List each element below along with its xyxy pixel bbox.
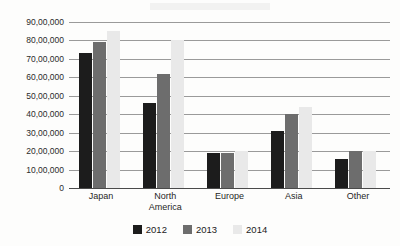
bar-groups: [69, 22, 390, 188]
legend-swatch-icon: [233, 225, 242, 234]
y-axis-tick-label: 30,00,000: [0, 128, 64, 138]
bar-other-2013[interactable]: [349, 151, 362, 188]
chart-legend: 201220132014: [0, 224, 400, 235]
y-axis-tick-label: 10,00,000: [0, 165, 64, 175]
bar-japan-2013[interactable]: [93, 42, 106, 188]
x-axis-tick-label: Japan: [69, 191, 133, 202]
bar-north-america-2013[interactable]: [157, 74, 170, 188]
x-axis-category-asia: Asia: [262, 191, 326, 202]
x-axis-tick-label: North: [133, 191, 197, 202]
bar-group: [271, 22, 312, 188]
legend-item-2014[interactable]: 2014: [233, 224, 267, 235]
plot-area: [69, 22, 390, 188]
bar-other-2012[interactable]: [335, 159, 348, 189]
bar-japan-2014[interactable]: [107, 31, 120, 188]
bar-asia-2013[interactable]: [285, 114, 298, 188]
x-axis-tick-label: Asia: [262, 191, 326, 202]
bar-other-2014[interactable]: [363, 151, 376, 188]
bar-group: [143, 22, 184, 188]
legend-label: 2014: [246, 224, 267, 235]
y-axis-tick-label: 90,00,000: [0, 17, 64, 27]
x-axis-category-other: Other: [326, 191, 390, 202]
x-axis-category-japan: Japan: [69, 191, 133, 202]
bar-japan-2012[interactable]: [79, 53, 92, 188]
y-axis-tick-label: 20,00,000: [0, 146, 64, 156]
legend-label: 2013: [196, 224, 217, 235]
legend-label: 2012: [146, 224, 167, 235]
bar-group: [207, 22, 248, 188]
y-axis-tick-label: 80,00,000: [0, 35, 64, 45]
bar-europe-2014[interactable]: [235, 151, 248, 188]
bar-group: [335, 22, 376, 188]
x-axis-tick-label: America: [133, 202, 197, 213]
x-axis-category-europe: Europe: [197, 191, 261, 202]
bar-europe-2013[interactable]: [221, 153, 234, 188]
x-axis-category-north-america: NorthAmerica: [133, 191, 197, 212]
bar-chart: 010,00,00020,00,00030,00,00040,00,00050,…: [0, 0, 400, 246]
y-axis-tick-label: 40,00,000: [0, 109, 64, 119]
y-axis-tick-label: 70,00,000: [0, 54, 64, 64]
bar-north-america-2014[interactable]: [171, 40, 184, 188]
gridline: [69, 188, 390, 189]
legend-item-2013[interactable]: 2013: [183, 224, 217, 235]
bar-asia-2014[interactable]: [299, 107, 312, 188]
bar-north-america-2012[interactable]: [143, 103, 156, 188]
x-axis-tick-label: Other: [326, 191, 390, 202]
y-axis-tick-label: 60,00,000: [0, 72, 64, 82]
bar-asia-2012[interactable]: [271, 131, 284, 188]
legend-swatch-icon: [133, 225, 142, 234]
legend-item-2012[interactable]: 2012: [133, 224, 167, 235]
bar-europe-2012[interactable]: [207, 153, 220, 188]
bar-group: [79, 22, 120, 188]
x-axis-labels: JapanNorthAmericaEuropeAsiaOther: [69, 191, 390, 219]
y-axis-tick-label: 0: [0, 183, 64, 193]
y-axis-tick-label: 50,00,000: [0, 91, 64, 101]
x-axis-tick-label: Europe: [197, 191, 261, 202]
legend-swatch-icon: [183, 225, 192, 234]
